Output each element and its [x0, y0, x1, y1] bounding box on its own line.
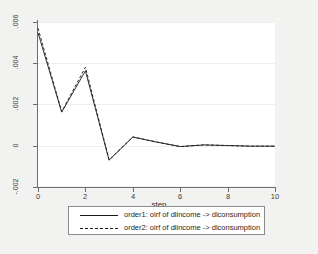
chart-figure: .006 .004 .002 0 -.002 0 2 4 6 8 10 step… — [0, 0, 318, 254]
gridline-002 — [38, 104, 275, 105]
y-tick-mark-002 — [33, 104, 37, 105]
y-tick-label-004: .004 — [12, 48, 19, 78]
y-tick-mark-000 — [33, 146, 37, 147]
y-tick-label-000: 0 — [12, 131, 19, 161]
y-tick-label-002: .002 — [12, 89, 19, 119]
x-axis-line — [37, 187, 276, 188]
y-tick-mark-004 — [33, 63, 37, 64]
gridline-004 — [38, 63, 275, 64]
legend-box: order1: oirf of dlincome -> dlconsumptio… — [68, 206, 265, 235]
y-tick-mark-neg002 — [33, 187, 37, 188]
legend-key-dashed-icon — [78, 223, 120, 233]
gridline-000 — [38, 146, 275, 147]
y-tick-label-006: .006 — [12, 7, 19, 37]
legend-entry-order1: order1: oirf of dlincome -> dlconsumptio… — [69, 208, 266, 221]
legend-key-solid-icon — [78, 210, 120, 220]
y-axis-line — [37, 20, 38, 188]
y-tick-label-neg002: -.002 — [12, 172, 19, 202]
legend-label-order2: order2: oirf of dlincome -> dlconsumptio… — [124, 223, 260, 232]
legend-entry-order2: order2: oirf of dlincome -> dlconsumptio… — [69, 221, 266, 234]
gridline-006 — [38, 22, 275, 23]
y-tick-mark-006 — [33, 22, 37, 23]
legend-label-order1: order1: oirf of dlincome -> dlconsumptio… — [124, 210, 260, 219]
